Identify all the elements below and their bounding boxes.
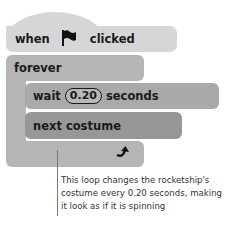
- forever-block-side: [6, 78, 26, 144]
- flag-icon: [62, 30, 76, 49]
- loop-arrow-icon: [116, 146, 130, 162]
- callout-line: [57, 150, 58, 216]
- clicked-label: clicked: [90, 32, 135, 46]
- forever-block-bottom: [6, 141, 144, 167]
- wait-value-input[interactable]: 0.20: [65, 88, 102, 104]
- wait-seconds-block[interactable]: wait 0.20 seconds: [25, 83, 219, 109]
- when-label: when: [15, 32, 50, 46]
- annotation-text: This loop changes the rocketship's costu…: [61, 174, 229, 213]
- wait-label: wait: [33, 89, 61, 103]
- seconds-label: seconds: [106, 89, 159, 103]
- next-costume-label: next costume: [33, 119, 121, 133]
- when-flag-clicked-block[interactable]: when clicked: [6, 26, 177, 52]
- forever-label: forever: [14, 61, 61, 75]
- forever-block[interactable]: forever: [6, 55, 144, 81]
- next-costume-block[interactable]: next costume: [25, 112, 182, 139]
